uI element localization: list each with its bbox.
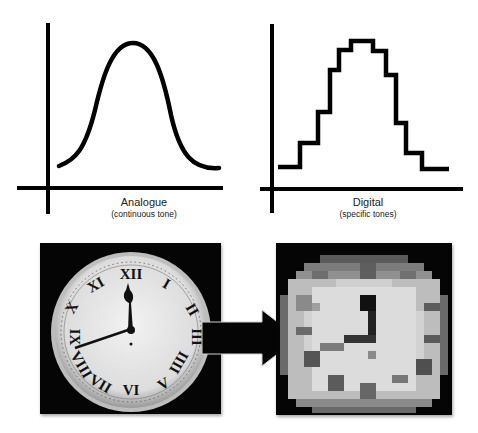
analogue-subtitle: (continuous tone) xyxy=(64,209,224,220)
digital-label: Digital (specific tones) xyxy=(288,196,448,220)
smooth-bell-curve xyxy=(59,43,219,168)
analogue-graph: Analogue (continuous tone) xyxy=(0,0,240,230)
svg-text:VI: VI xyxy=(123,382,140,398)
pixelated-clock-photo xyxy=(276,243,452,415)
digital-graph: Digital (specific tones) xyxy=(240,0,478,230)
analogue-title: Analogue xyxy=(64,196,224,209)
stepped-bell-curve xyxy=(278,41,449,169)
svg-text:XII: XII xyxy=(120,266,143,282)
digital-subtitle: (specific tones) xyxy=(288,209,448,220)
pixelated-clock-icon xyxy=(276,243,452,415)
digital-title: Digital xyxy=(288,196,448,209)
clock-icon: XII I II III IIII V VI VII VIII IX X XI xyxy=(40,243,221,414)
pixel-grid xyxy=(280,255,448,413)
analogue-clock-photo: XII I II III IIII V VI VII VIII IX X XI xyxy=(40,243,221,414)
svg-text:IX: IX xyxy=(67,329,83,346)
analogue-label: Analogue (continuous tone) xyxy=(64,196,224,220)
